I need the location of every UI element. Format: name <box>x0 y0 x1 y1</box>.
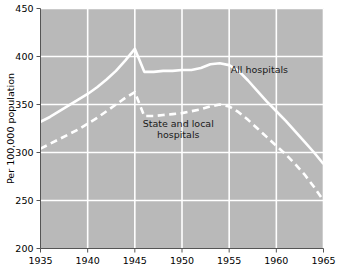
line-chart: 2002503003504004501935194019451950195519… <box>0 0 337 278</box>
series-annotation-1: All hospitals <box>231 64 288 75</box>
y-tick-label: 200 <box>15 243 33 254</box>
y-tick-label: 450 <box>15 3 33 14</box>
series-annotation-2: State and local <box>143 118 214 129</box>
x-tick-label: 1935 <box>28 255 52 266</box>
x-tick-label: 1960 <box>264 255 288 266</box>
x-tick-label: 1965 <box>311 255 335 266</box>
chart-container: 2002503003504004501935194019451950195519… <box>0 0 337 278</box>
x-axis-ticks: 1935194019451950195519601965 <box>28 249 335 266</box>
y-tick-label: 400 <box>15 51 33 62</box>
x-tick-label: 1950 <box>170 255 194 266</box>
series-annotation-2-line2: hospitals <box>157 129 200 140</box>
y-axis-title: Per 100,000 population <box>5 73 16 184</box>
y-tick-label: 350 <box>15 99 33 110</box>
y-axis-ticks: 200250300350400450 <box>15 3 40 254</box>
y-tick-label: 250 <box>15 195 33 206</box>
x-tick-label: 1945 <box>123 255 147 266</box>
x-tick-label: 1955 <box>217 255 241 266</box>
y-tick-label: 300 <box>15 147 33 158</box>
x-tick-label: 1940 <box>76 255 100 266</box>
